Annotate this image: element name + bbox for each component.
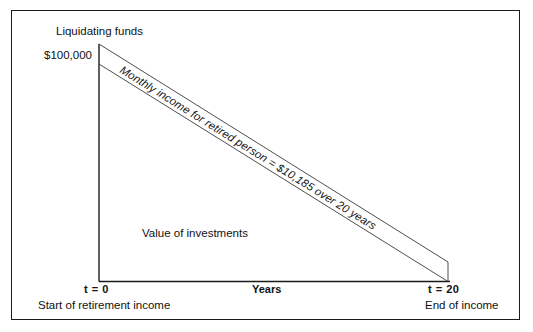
- band-annotation-text: Monthly income for retired person = $10,…: [118, 64, 379, 232]
- x-axis-caption-right: End of income: [425, 300, 499, 312]
- y-axis-top-tick-label: $100,000: [44, 50, 92, 62]
- x-axis-tick-label-left: t = 0: [84, 284, 109, 295]
- figure-container: Monthly income for retired person = $10,…: [0, 0, 533, 332]
- interior-annotation-value-of-investments: Value of investments: [142, 228, 248, 240]
- investments-boundary-line: [99, 64, 448, 282]
- x-axis-tick-label-right: t = 20: [428, 284, 459, 295]
- x-axis-title: Years: [252, 284, 281, 295]
- y-axis-title: Liquidating funds: [56, 26, 143, 38]
- x-axis-caption-left: Start of retirement income: [38, 300, 170, 312]
